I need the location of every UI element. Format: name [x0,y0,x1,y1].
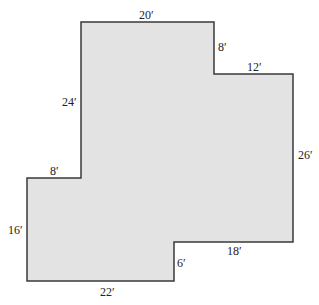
label-bottom: 22′ [100,286,115,298]
label-lower-step-horizontal: 18′ [227,245,242,257]
label-upper-step-horizontal: 12′ [247,61,262,73]
label-left-lower: 16′ [8,224,23,236]
label-right: 26′ [298,149,313,161]
label-top: 20′ [139,9,154,21]
label-left-upper: 24′ [62,96,77,108]
label-left-step-horizontal: 8′ [50,165,59,177]
label-lower-step-vertical: 6′ [177,257,186,269]
label-upper-step-vertical: 8′ [218,41,227,53]
polygon-svg [0,0,319,305]
floor-plan-diagram: 20′ 8′ 12′ 26′ 18′ 6′ 22′ 16′ 8′ 24′ [0,0,319,305]
